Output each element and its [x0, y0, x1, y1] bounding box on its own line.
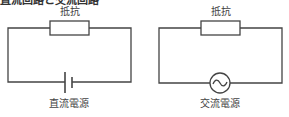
dc-resistor-label: 抵抗 — [60, 5, 80, 17]
ac-circuit — [159, 21, 282, 93]
dc-wire-left — [8, 28, 65, 82]
ac-resistor-label: 抵抗 — [211, 5, 231, 17]
ac-wire-right — [230, 28, 282, 83]
dc-wire-right — [72, 28, 131, 82]
dc-source-label: 直流電源 — [49, 97, 89, 109]
ac-wire-left — [159, 28, 210, 83]
ac-source-label: 交流電源 — [200, 97, 240, 109]
ac-resistor — [201, 21, 240, 35]
circuit-diagrams: 抵抗 直流電源 抵抗 交流電源 — [0, 0, 289, 117]
dc-circuit — [8, 21, 131, 93]
dc-resistor — [50, 21, 89, 35]
